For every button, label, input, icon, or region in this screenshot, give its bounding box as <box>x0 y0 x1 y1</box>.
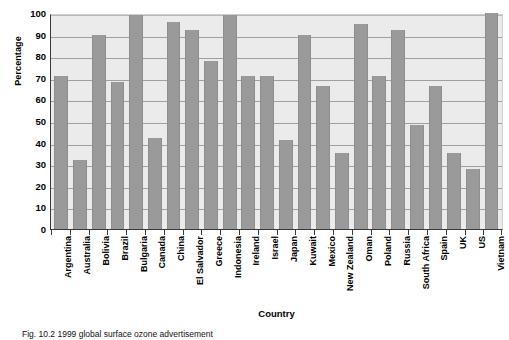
tick-slot <box>89 230 108 235</box>
bar[interactable] <box>185 30 199 229</box>
y-tick-label: 30 <box>16 160 46 170</box>
bar[interactable] <box>410 125 424 229</box>
x-label-slot: South Africa <box>408 236 427 306</box>
bar-slot <box>220 15 239 229</box>
x-label-slot: Russia <box>389 236 408 306</box>
x-label-slot: Vietnam <box>483 236 502 306</box>
x-tick-mark <box>258 230 259 235</box>
bar-slot <box>146 15 165 229</box>
x-label-slot: Greece <box>201 236 220 306</box>
bar[interactable] <box>241 76 255 229</box>
x-tick-mark <box>352 230 353 235</box>
x-label-slot: Spain <box>427 236 446 306</box>
bar-slot <box>333 15 352 229</box>
tick-slot <box>258 230 277 235</box>
bar-slot <box>89 15 108 229</box>
bar-slot <box>370 15 389 229</box>
x-label-slot: Israel <box>258 236 277 306</box>
bar-slot <box>202 15 221 229</box>
bar-slot <box>351 15 370 229</box>
x-tick-mark <box>51 230 52 235</box>
x-tick-mark <box>483 230 484 235</box>
tick-slot <box>239 230 258 235</box>
x-label-slot: UK <box>446 236 465 306</box>
bar[interactable] <box>372 76 386 229</box>
bar-slot <box>445 15 464 229</box>
y-tick-label: 90 <box>16 31 46 41</box>
bar[interactable] <box>335 153 349 229</box>
tick-slot <box>389 230 408 235</box>
x-label-slot: Argentina <box>51 236 70 306</box>
bar-slot <box>258 15 277 229</box>
x-label-slot: El Salvador <box>183 236 202 306</box>
bar[interactable] <box>298 35 312 229</box>
bar[interactable] <box>73 160 87 229</box>
bar-slot <box>52 15 71 229</box>
bar[interactable] <box>354 24 368 229</box>
x-tick-mark <box>220 230 221 235</box>
x-tick-mark <box>126 230 127 235</box>
bar[interactable] <box>485 13 499 229</box>
bar-slot <box>314 15 333 229</box>
bar-slot <box>239 15 258 229</box>
tick-slot <box>51 230 70 235</box>
tick-slot <box>164 230 183 235</box>
bar[interactable] <box>316 86 330 229</box>
bar[interactable] <box>148 138 162 229</box>
bar[interactable] <box>260 76 274 229</box>
tick-slot <box>107 230 126 235</box>
x-label-slot: Japan <box>277 236 296 306</box>
bar[interactable] <box>429 86 443 229</box>
bar-slot <box>164 15 183 229</box>
figure-caption: Fig. 10.2 1999 global surface ozone adve… <box>22 329 492 340</box>
x-tick-mark <box>371 230 372 235</box>
x-tick-mark <box>446 230 447 235</box>
tick-slot <box>70 230 89 235</box>
x-tick-mark <box>277 230 278 235</box>
bar-slot <box>482 15 501 229</box>
bar[interactable] <box>447 153 461 229</box>
bar-slot <box>389 15 408 229</box>
bar-slot <box>295 15 314 229</box>
bar-slot <box>426 15 445 229</box>
bar[interactable] <box>279 140 293 229</box>
x-tick-mark <box>164 230 165 235</box>
plot-area <box>50 14 503 230</box>
bar-slot <box>108 15 127 229</box>
tick-slot <box>446 230 465 235</box>
bar-slot <box>463 15 482 229</box>
tick-slot <box>465 230 484 235</box>
bar[interactable] <box>92 35 106 229</box>
x-label-slot: Ireland <box>239 236 258 306</box>
y-tick-label: 20 <box>16 182 46 192</box>
y-tick-label: 60 <box>16 96 46 106</box>
bar[interactable] <box>466 169 480 229</box>
bar[interactable] <box>167 22 181 229</box>
bar-series <box>51 15 502 229</box>
tick-slot <box>314 230 333 235</box>
tick-slot <box>352 230 371 235</box>
bar[interactable] <box>111 82 125 229</box>
tick-slot <box>408 230 427 235</box>
x-axis-tick-marks <box>50 230 503 235</box>
bar[interactable] <box>391 30 405 229</box>
bar[interactable] <box>54 76 68 229</box>
bar-slot <box>127 15 146 229</box>
bar-slot <box>407 15 426 229</box>
x-tick-mark <box>427 230 428 235</box>
y-tick-label: 70 <box>16 74 46 84</box>
x-tick-label: Vietnam <box>497 236 506 271</box>
x-label-slot: Oman <box>352 236 371 306</box>
x-tick-mark <box>183 230 184 235</box>
bar[interactable] <box>129 15 143 229</box>
x-label-slot: Canada <box>145 236 164 306</box>
tick-slot <box>201 230 220 235</box>
bar[interactable] <box>223 15 237 229</box>
bar[interactable] <box>204 61 218 229</box>
y-tick-label: 10 <box>16 204 46 214</box>
tick-slot <box>145 230 164 235</box>
tick-slot <box>277 230 296 235</box>
tick-slot <box>183 230 202 235</box>
x-label-slot: Bolivia <box>89 236 108 306</box>
bar-slot <box>276 15 295 229</box>
